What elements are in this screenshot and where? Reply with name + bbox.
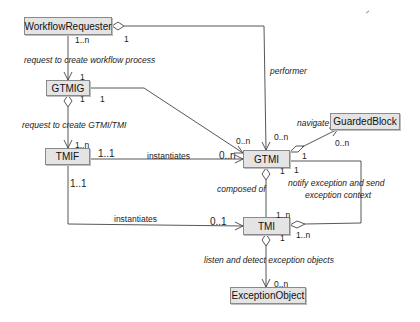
label-request-gtmi-tmi: request to create GTMI/TMI bbox=[22, 120, 126, 130]
mult-tmi-from-tmif: 0..1 bbox=[210, 216, 227, 227]
mult-gtmi-from-wr: 0..n bbox=[274, 132, 288, 142]
mult-wr-performer: 1 bbox=[124, 34, 129, 44]
class-guarded-block: GuardedBlock bbox=[330, 113, 400, 130]
label-performer: performer bbox=[270, 66, 307, 76]
mult-tmi-top: 1..n bbox=[276, 210, 290, 220]
mult-tmi-notify: 1..n bbox=[296, 230, 310, 240]
mult-gtmi-guarded: 1 bbox=[302, 151, 307, 161]
label-notify-line1: notify exception and send bbox=[288, 178, 384, 188]
mult-tmi-bottom: 1 bbox=[280, 233, 285, 243]
mult-gtmi-notify: 1 bbox=[294, 165, 299, 175]
class-workflow-requester: WorkflowRequester bbox=[24, 17, 112, 35]
mult-wr-to-gtmig: 1..n bbox=[75, 35, 89, 45]
mult-tmif-right: 1..1 bbox=[98, 148, 115, 159]
mult-gtmi-from-tmif: 0..n bbox=[219, 150, 236, 161]
label-navigate: navigate bbox=[297, 118, 329, 128]
mult-gtmi-from-gtmig: 0..n bbox=[236, 136, 250, 146]
mult-gtmig-down: 1 bbox=[80, 94, 85, 104]
mult-tmif-down: 1..1 bbox=[70, 178, 87, 189]
mult-gtmig-from-wr: 1 bbox=[80, 72, 85, 82]
mult-tmif-from-gtmig: 1..n bbox=[75, 140, 89, 150]
class-tmif: TMIF bbox=[45, 148, 90, 165]
mult-gtmi-bottom: 1 bbox=[280, 166, 285, 176]
label-listen-detect: listen and detect exception objects bbox=[204, 255, 334, 265]
mult-gtmig-right: 1 bbox=[100, 94, 105, 104]
label-request-workflow: request to create workflow process bbox=[24, 55, 155, 65]
label-instantiates-gtmi: instantiates bbox=[147, 151, 190, 161]
label-instantiates-tmi: instantiates bbox=[114, 214, 157, 224]
mult-exception-object: 0..n bbox=[274, 279, 288, 289]
mult-guarded-block: 0..n bbox=[335, 138, 349, 148]
class-exception-object: ExceptionObject bbox=[230, 287, 306, 304]
label-notify-line2: exception context bbox=[305, 190, 371, 200]
label-composed-of: composed of bbox=[217, 184, 266, 194]
